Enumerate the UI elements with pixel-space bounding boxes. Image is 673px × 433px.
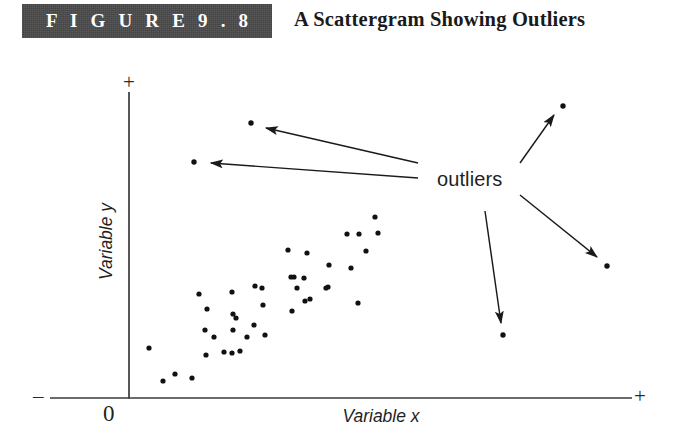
data-point <box>229 350 234 355</box>
data-point <box>363 248 368 253</box>
data-point <box>146 345 151 350</box>
outliers-annotation-label: outliers <box>437 168 502 191</box>
data-point <box>203 352 208 357</box>
outlier-point-lower-right <box>604 263 609 268</box>
data-point-cluster <box>146 214 380 383</box>
data-point <box>372 214 377 219</box>
data-point <box>172 371 177 376</box>
data-point <box>307 296 312 301</box>
data-point <box>294 285 299 290</box>
data-point <box>196 291 201 296</box>
data-point <box>304 250 309 255</box>
data-point <box>285 247 290 252</box>
data-point <box>289 308 294 313</box>
arrow-to-outlier-lower-right <box>520 195 597 257</box>
outlier-point-bottom <box>500 332 505 337</box>
data-point <box>302 298 307 303</box>
data-point <box>252 283 257 288</box>
data-point <box>259 285 264 290</box>
y-axis-title: Variable y <box>96 172 117 312</box>
figure-container: F I G U R E 9 . 8 A Scattergram Showing … <box>0 0 673 433</box>
data-point <box>251 322 256 327</box>
data-point <box>375 230 380 235</box>
data-point <box>160 378 165 383</box>
data-point <box>211 334 216 339</box>
outlier-point-upper-right <box>560 103 565 108</box>
data-point <box>260 302 265 307</box>
scatterplot: + – + 0 Variable x Variable y outliers <box>0 45 673 433</box>
data-point <box>291 274 296 279</box>
data-point <box>262 332 267 337</box>
data-point <box>348 265 353 270</box>
origin-label: 0 <box>103 402 115 425</box>
figure-number-banner: F I G U R E 9 . 8 <box>22 4 272 38</box>
axis-lines <box>50 92 632 399</box>
y-axis-positive-sign: + <box>123 72 135 93</box>
data-point <box>221 349 226 354</box>
data-point <box>326 262 331 267</box>
data-point <box>202 327 207 332</box>
data-point <box>230 327 235 332</box>
annotation-arrows <box>211 115 597 323</box>
data-point <box>325 284 330 289</box>
data-point <box>244 334 249 339</box>
arrow-to-outlier-left <box>211 163 418 178</box>
figure-title: A Scattergram Showing Outliers <box>294 8 585 31</box>
outlier-points <box>191 103 609 337</box>
x-axis-title: Variable x <box>311 406 451 427</box>
data-point <box>189 375 194 380</box>
data-point <box>229 289 234 294</box>
x-axis-negative-sign: – <box>33 386 44 407</box>
data-point <box>301 275 306 280</box>
data-point <box>237 348 242 353</box>
arrow-to-outlier-upper-right <box>520 115 554 163</box>
data-point <box>344 231 349 236</box>
figure-number-label: F I G U R E 9 . 8 <box>42 10 253 32</box>
outlier-point-left <box>191 159 196 164</box>
data-point <box>356 231 361 236</box>
arrow-to-outlier-bottom <box>485 211 501 323</box>
data-point <box>233 315 238 320</box>
outlier-point-upper-left <box>248 120 253 125</box>
x-axis-positive-sign: + <box>634 386 646 407</box>
data-point <box>355 300 360 305</box>
arrow-to-outlier-upper-left <box>266 128 418 163</box>
data-point <box>204 306 209 311</box>
